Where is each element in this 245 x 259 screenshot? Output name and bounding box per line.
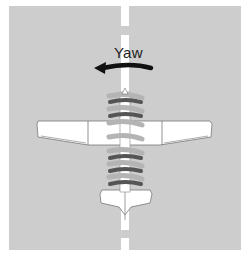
yaw-label: Yaw — [114, 44, 143, 61]
aircraft-diagram — [0, 0, 245, 259]
